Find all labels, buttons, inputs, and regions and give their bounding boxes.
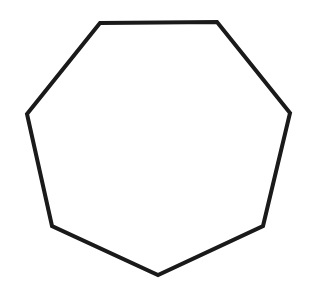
diagram-canvas: [0, 0, 312, 288]
heptagon-outline: [27, 22, 290, 275]
heptagon-figure: [0, 0, 312, 288]
